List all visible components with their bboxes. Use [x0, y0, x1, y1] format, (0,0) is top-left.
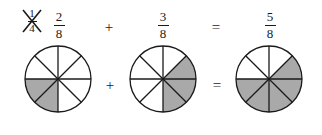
fraction-numerator: 5 — [266, 10, 275, 23]
fraction-label-two-eighths: 2 8 — [48, 10, 70, 40]
fraction-diagram-canvas: 1 4 2 8 + 3 8 = 5 8 + = — [0, 0, 322, 135]
operator-equals-bottom: = — [209, 78, 225, 93]
fraction-numerator: 2 — [55, 10, 64, 23]
fraction-denominator: 8 — [266, 27, 275, 40]
pie-sum-svg — [234, 44, 304, 114]
fraction-denominator: 8 — [55, 27, 64, 40]
fraction-one-quarter: 1 4 — [21, 8, 43, 34]
fraction-numerator: 3 — [159, 10, 168, 23]
fraction-denominator: 8 — [159, 27, 168, 40]
operator-equals-top: = — [208, 20, 224, 35]
pie-addend-2-svg — [128, 44, 198, 114]
fraction-label-three-eighths: 3 8 — [152, 10, 174, 40]
operator-plus-bottom: + — [102, 78, 118, 93]
pie-chart-addend-2 — [128, 44, 198, 114]
pie-addend-1-svg — [23, 44, 93, 114]
fraction-label-five-eighths: 5 8 — [259, 10, 281, 40]
operator-plus-top: + — [101, 20, 117, 35]
pie-chart-sum — [234, 44, 304, 114]
fraction-denominator: 4 — [28, 23, 36, 34]
fraction-numerator: 1 — [28, 8, 36, 19]
struck-fraction-one-quarter: 1 4 — [21, 8, 43, 34]
pie-chart-addend-1 — [23, 44, 93, 114]
